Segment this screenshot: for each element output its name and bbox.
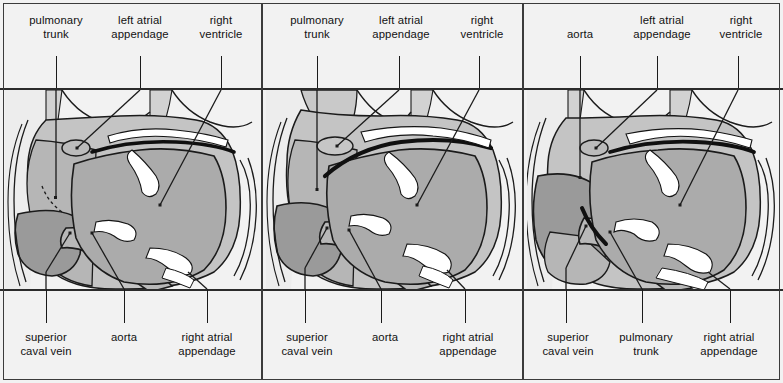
panel-3-leader-left-atrial-appendage (657, 56, 658, 88)
panel-3-bottom-rule (522, 289, 783, 291)
panel-3-leader-aorta (580, 56, 581, 88)
panel-1: pulmonary trunk left atrial appendage ri… (0, 0, 261, 383)
panel-2: pulmonary trunk left atrial appendage ri… (261, 0, 522, 383)
panel-2-bottom-rule (261, 289, 522, 291)
panel-3-leader-superior-caval-vein (566, 289, 567, 323)
panel-divider-1 (261, 3, 263, 380)
panel-2-illustration (261, 0, 522, 383)
panel-3-leader-pulmonary-trunk (642, 289, 643, 323)
panel-1-bottom-rule (0, 289, 261, 291)
panel-2-top-rule (261, 88, 522, 90)
panel-2-label-aorta: aorta (372, 331, 398, 345)
panel-1-label-superior-caval-vein: superior caval vein (20, 331, 71, 358)
panel-1-label-right-atrial-appendage: right atrial appendage (178, 331, 235, 358)
panel-1-leader-left-atrial-appendage (140, 56, 141, 88)
panel-1-leader-aorta (124, 289, 125, 323)
panel-1-leader-pulmonary-trunk (56, 56, 57, 88)
panel-1-label-right-ventricle: right ventricle (200, 14, 243, 41)
panel-2-leader-right-ventricle (479, 56, 480, 88)
panel-3-label-left-atrial-appendage: left atrial appendage (633, 14, 690, 41)
panel-2-leader-right-atrial-appendage (465, 289, 466, 323)
panel-divider-2 (522, 3, 524, 380)
panel-3-label-superior-caval-vein: superior caval vein (542, 331, 593, 358)
panel-2-leader-left-atrial-appendage (399, 56, 400, 88)
panel-2-label-left-atrial-appendage: left atrial appendage (372, 14, 429, 41)
panel-2-label-right-ventricle: right ventricle (461, 14, 504, 41)
panel-3-leader-right-ventricle (738, 56, 739, 88)
panel-2-label-pulmonary-trunk: pulmonary trunk (290, 14, 344, 41)
panel-3-label-right-ventricle: right ventricle (720, 14, 763, 41)
panel-2-label-superior-caval-vein: superior caval vein (281, 331, 332, 358)
panel-2-leader-pulmonary-trunk (317, 56, 318, 88)
panel-2-leader-aorta (381, 289, 382, 323)
panel-3-label-pulmonary-trunk: pulmonary trunk (619, 331, 673, 358)
panel-1-label-left-atrial-appendage: left atrial appendage (111, 14, 168, 41)
panel-1-label-aorta: aorta (111, 331, 137, 345)
panel-3: aorta left atrial appendage right ventri… (522, 0, 783, 383)
panel-3-leader-right-atrial-appendage (730, 289, 731, 323)
panel-1-label-pulmonary-trunk: pulmonary trunk (29, 14, 83, 41)
panel-2-leader-superior-caval-vein (305, 289, 306, 323)
anatomy-figure: pulmonary trunk left atrial appendage ri… (0, 0, 783, 383)
panel-3-label-right-atrial-appendage: right atrial appendage (700, 331, 757, 358)
panel-3-top-rule (522, 88, 783, 90)
panel-2-label-right-atrial-appendage: right atrial appendage (439, 331, 496, 358)
panel-1-top-rule (0, 88, 261, 90)
panel-3-illustration (522, 0, 783, 383)
panel-1-leader-right-ventricle (221, 56, 222, 88)
panel-1-leader-right-atrial-appendage (207, 289, 208, 323)
panel-1-leader-superior-caval-vein (46, 289, 47, 323)
panel-3-label-aorta: aorta (567, 28, 593, 42)
